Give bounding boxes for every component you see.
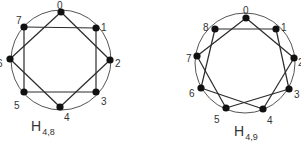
vertex-6 <box>197 84 204 91</box>
graph-h-4-9: 012345678H4,9 <box>186 5 301 142</box>
vertex-label: 1 <box>281 22 287 33</box>
edge-1-3 <box>276 29 289 89</box>
edge-6-8 <box>201 29 215 88</box>
vertex-1 <box>272 25 279 32</box>
vertex-label: 1 <box>101 22 107 33</box>
vertex-5 <box>20 88 27 95</box>
vertex-3 <box>285 85 292 92</box>
vertex-label: 6 <box>189 88 195 99</box>
vertex-label: 5 <box>14 100 20 111</box>
graph-h-4-8: 01234567H4,8 <box>0 0 121 137</box>
vertex-4 <box>259 105 266 112</box>
vertex-label: 5 <box>214 114 220 125</box>
vertex-2 <box>290 54 297 61</box>
vertex-label: 3 <box>101 96 107 107</box>
graph-title: H4,9 <box>234 123 258 142</box>
vertex-label: 4 <box>64 112 70 123</box>
vertex-4 <box>56 103 63 110</box>
edge-7-1 <box>24 27 96 28</box>
vertex-1 <box>92 24 99 31</box>
vertex-2 <box>106 56 113 63</box>
vertex-label: 0 <box>57 0 63 11</box>
vertex-label: 6 <box>0 58 3 69</box>
graph-title: H4,8 <box>31 118 55 137</box>
graph-figure: 01234567H4,8012345678H4,9 <box>0 0 301 144</box>
vertex-label: 3 <box>294 89 300 100</box>
vertex-label: 2 <box>298 57 301 68</box>
vertex-7 <box>193 52 200 59</box>
vertex-label: 7 <box>186 53 192 64</box>
vertex-5 <box>222 104 229 111</box>
vertex-label: 2 <box>115 58 121 69</box>
vertex-label: 4 <box>267 115 273 126</box>
outer-circle <box>195 13 295 113</box>
vertex-label: 7 <box>16 15 22 26</box>
edge-0-2 <box>246 18 294 58</box>
edge-2-4 <box>263 58 294 109</box>
vertex-3 <box>92 88 99 95</box>
vertex-6 <box>6 55 13 62</box>
vertex-8 <box>211 25 218 32</box>
vertex-label: 8 <box>203 22 209 33</box>
edge-0-2 <box>61 12 110 60</box>
vertex-label: 0 <box>243 5 249 16</box>
